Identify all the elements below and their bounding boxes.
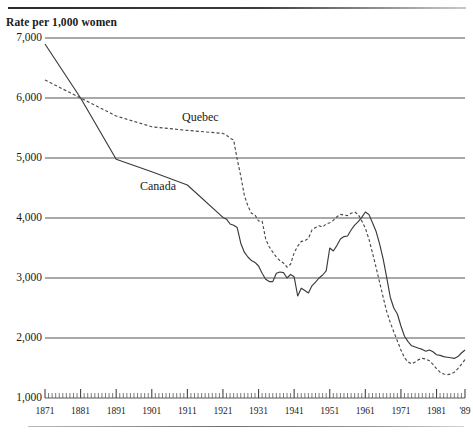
plot-area: [0, 0, 473, 435]
x-tick-label: 1971: [381, 406, 421, 416]
x-tick-label: 1931: [239, 406, 279, 416]
y-tick-label: 6,000: [0, 91, 42, 103]
x-tick-label: 1951: [310, 406, 350, 416]
x-tick-label: 1921: [203, 406, 243, 416]
series-label-canada: Canada: [140, 179, 176, 194]
x-tick-label: 1891: [96, 406, 136, 416]
chart-figure: Rate per 1,000 women 7,0006,0005,0004,00…: [0, 0, 473, 435]
x-tick-label: '89: [445, 406, 473, 416]
series-line-canada: [45, 44, 465, 358]
y-tick-label: 2,000: [0, 331, 42, 343]
series-paths: [45, 44, 465, 375]
x-tick-label: 1901: [132, 406, 172, 416]
bottom-rule: [28, 426, 464, 427]
series-label-quebec: Quebec: [182, 110, 219, 125]
x-tick-label: 1881: [61, 406, 101, 416]
x-tick-label: 1911: [167, 406, 207, 416]
gridlines: [45, 38, 465, 398]
x-tick-label: 1941: [274, 406, 314, 416]
y-tick-label: 4,000: [0, 211, 42, 223]
y-tick-label: 3,000: [0, 271, 42, 283]
y-tick-label: 1,000: [0, 391, 42, 403]
y-tick-label: 5,000: [0, 151, 42, 163]
x-tick-label: 1961: [345, 406, 385, 416]
x-tick-label: 1871: [25, 406, 65, 416]
x-axis-ticks: [45, 389, 465, 398]
y-tick-label: 7,000: [0, 31, 42, 43]
